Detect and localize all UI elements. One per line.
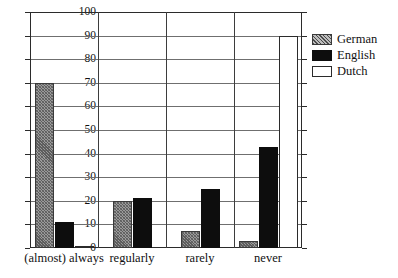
y-tick-mark-right-70	[302, 83, 307, 84]
group-divider	[98, 12, 99, 248]
y-tick-mark-right-40	[302, 154, 307, 155]
plot-area	[30, 12, 302, 248]
y-tick-mark-right-10	[302, 224, 307, 225]
y-tick-mark-right-80	[302, 59, 307, 60]
group-divider	[234, 12, 235, 248]
legend-label-dutch: Dutch	[337, 65, 368, 78]
bar-group	[234, 12, 302, 248]
bar-english-rarely	[201, 189, 220, 248]
bar-english-regularly	[133, 198, 152, 248]
black-swatch-icon	[312, 50, 332, 61]
bar-german-regularly	[113, 201, 132, 248]
legend-item-german: German	[312, 32, 377, 46]
bar-german-rarely	[181, 231, 200, 248]
bar-english--almost-always	[55, 222, 74, 248]
legend: GermanEnglishDutch	[312, 32, 377, 78]
y-tick-mark-right-50	[302, 130, 307, 131]
x-tick-label-never: never	[212, 251, 324, 265]
y-tick-mark-right-20	[302, 201, 307, 202]
bar-english-never	[259, 147, 278, 248]
bar-dutch--almost-always	[75, 246, 94, 248]
legend-item-english: English	[312, 48, 377, 62]
bar-group	[98, 12, 166, 248]
y-tick-mark-left-0	[25, 248, 30, 249]
legend-item-dutch: Dutch	[312, 64, 377, 78]
legend-label-german: German	[337, 33, 377, 46]
y-tick-mark-right-0	[302, 248, 307, 249]
group-divider	[166, 12, 167, 248]
bar-group	[166, 12, 234, 248]
y-tick-mark-right-60	[302, 106, 307, 107]
y-tick-mark-right-30	[302, 177, 307, 178]
bar-dutch-never	[279, 36, 298, 248]
white-swatch-icon	[312, 66, 332, 77]
bar-german--almost-always	[35, 83, 54, 248]
y-tick-mark-right-90	[302, 36, 307, 37]
bar-chart: 0102030405060708090100 (almost) alwaysre…	[0, 0, 398, 278]
bar-german-never	[239, 241, 258, 248]
hatched-swatch-icon	[312, 34, 332, 45]
legend-label-english: English	[337, 49, 375, 62]
bar-group	[30, 12, 98, 248]
y-tick-mark-right-100	[302, 12, 307, 13]
